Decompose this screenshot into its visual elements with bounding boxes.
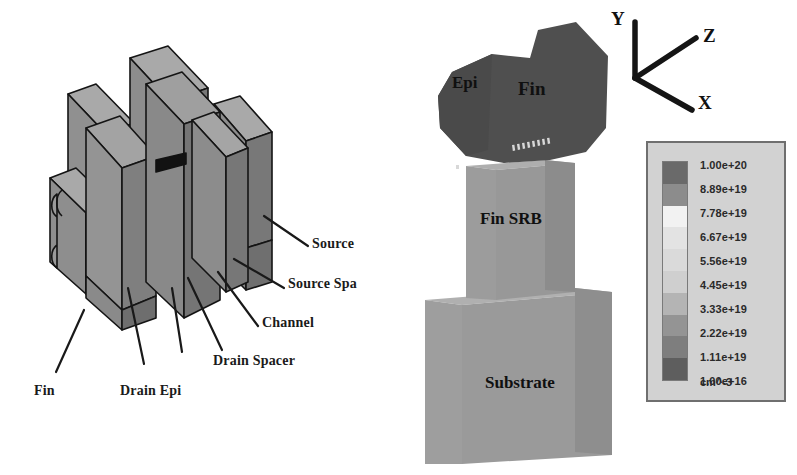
- colorbar-tick: 3.33e+19: [700, 297, 786, 321]
- slab-far-right: [192, 112, 248, 292]
- structure-label-fin: Fin: [518, 78, 545, 100]
- colorbar-tick: 6.67e+19: [700, 225, 786, 249]
- callout-label-drain-epi: Drain Epi: [120, 383, 181, 399]
- colorbar-band-7: [663, 315, 687, 337]
- axis-label-x: X: [698, 92, 712, 114]
- colorbar-band-6: [663, 293, 687, 315]
- structure-label-epi: Epi: [452, 73, 478, 93]
- callout-label-source-spacer: Source Spa: [288, 276, 357, 292]
- colorbar-band-0: [663, 162, 687, 184]
- colorbar-band-1: [663, 184, 687, 206]
- colorbar-band-9: [663, 358, 687, 380]
- colorbar-tick: 5.56e+19: [700, 249, 786, 273]
- callout-label-drain-spacer: Drain Spacer: [213, 353, 295, 369]
- fin-srb-pillar: [466, 160, 575, 300]
- colorbar-band-8: [663, 336, 687, 358]
- structure-label-substrate: Substrate: [485, 373, 555, 393]
- colorbar-band-4: [663, 249, 687, 271]
- colorbar-legend: 1.00e+20 8.89e+19 7.78e+19 6.67e+19 5.56…: [646, 141, 786, 402]
- colorbar-tick: 8.89e+19: [700, 177, 786, 201]
- colorbar-tick: 4.45e+19: [700, 273, 786, 297]
- colorbar-tick: 1.00e+20: [700, 153, 786, 177]
- colorbar-tick: 7.78e+19: [700, 201, 786, 225]
- callout-label-fin: Fin: [34, 383, 55, 399]
- colorbar-tick: 2.22e+19: [700, 321, 786, 345]
- colorbar-unit-label: cm^-3: [700, 376, 732, 388]
- callout-label-channel: Channel: [262, 315, 314, 331]
- colorbar-tick-labels: 1.00e+20 8.89e+19 7.78e+19 6.67e+19 5.56…: [700, 153, 786, 393]
- colorbar-band-3: [663, 227, 687, 249]
- axis-label-y: Y: [611, 8, 625, 30]
- left-schematic-figure: Source Source Spa Channel Drain Spacer D…: [0, 0, 400, 475]
- colorbar-band-5: [663, 271, 687, 293]
- figure-canvas: Source Source Spa Channel Drain Spacer D…: [0, 0, 797, 475]
- colorbar-tick: 1.11e+19: [700, 345, 786, 369]
- colorbar-band-2: [663, 206, 687, 228]
- xyz-axis-triad: [635, 22, 696, 110]
- structure-label-fin-srb: Fin SRB: [480, 209, 542, 229]
- axis-label-z: Z: [703, 25, 716, 47]
- callout-label-source: Source: [312, 236, 354, 252]
- colorbar-gradient: [662, 161, 688, 381]
